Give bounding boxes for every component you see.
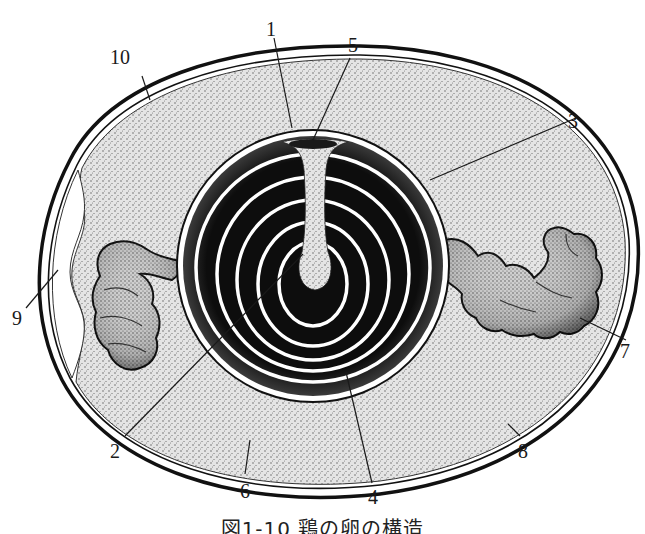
egg-structure-figure: 1 2 3 4 5 6 7 8 9 10 図1-10 鶏の卵の構造 [0,0,645,534]
egg-diagram: 1 2 3 4 5 6 7 8 9 10 [0,0,645,534]
label-2: 2 [110,440,120,462]
label-4: 4 [368,486,378,508]
figure-caption: 図1-10 鶏の卵の構造 [0,516,645,534]
label-8: 8 [518,440,528,462]
yolk [177,130,449,402]
label-6: 6 [240,480,250,502]
label-7: 7 [620,340,630,362]
label-5: 5 [348,34,358,56]
label-1: 1 [266,18,276,40]
label-9: 9 [12,307,22,329]
label-10: 10 [110,46,130,68]
germinal-disc [289,139,337,149]
label-3: 3 [568,110,578,132]
